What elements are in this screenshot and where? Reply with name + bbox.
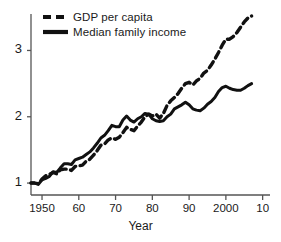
x-tick-label: 10: [238, 202, 281, 214]
y-tick-label: 3: [4, 41, 22, 56]
x-axis-title: Year: [0, 219, 281, 233]
legend-swatches: [43, 17, 68, 32]
legend-label-gdp-per-capita: GDP per capita: [73, 11, 153, 23]
data-series-group: [31, 16, 252, 184]
y-tick-label: 1: [4, 174, 22, 189]
chart-container: GDP per capita Median family income 1231…: [0, 0, 281, 242]
x-tick-marks: [42, 195, 263, 200]
series-line-gdp-per-capita: [31, 16, 252, 184]
legend-label-median-family-income: Median family income: [73, 26, 186, 38]
y-tick-label: 2: [4, 108, 22, 123]
